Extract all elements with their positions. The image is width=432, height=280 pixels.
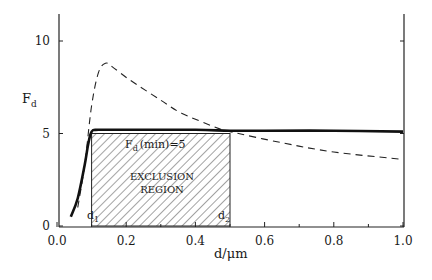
y-tick-label: 5	[42, 127, 50, 141]
x-axis-label: d/μm	[214, 246, 247, 261]
x-tick-label: 0.2	[117, 234, 136, 248]
y-tick-label: 0	[42, 219, 50, 233]
y-tick-label: 10	[35, 34, 50, 48]
chart: 0.00.20.40.60.81.00510 Fd d/μm Fd(min)=5…	[0, 0, 432, 280]
x-tick-label: 1.0	[393, 234, 412, 248]
y-axis-label: Fd	[22, 91, 37, 109]
x-tick-label: 0.4	[186, 234, 205, 248]
x-tick-label: 0.0	[47, 234, 66, 248]
exclusion-label-line1: EXCLUSION	[130, 171, 194, 182]
x-tick-label: 0.8	[324, 234, 343, 248]
exclusion-label-line2: REGION	[140, 184, 184, 195]
x-tick-label: 0.6	[255, 234, 274, 248]
